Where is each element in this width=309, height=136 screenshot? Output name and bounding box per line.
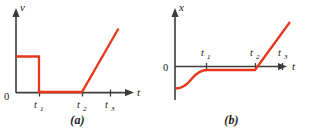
panel-b-y-axis <box>171 8 178 100</box>
panel-b-tick-label-t1-sub: 1 <box>207 53 211 61</box>
panel-a-tick-label-t3: t 3 <box>105 99 115 113</box>
panel-a-tick-label-t3-base: t <box>105 99 109 110</box>
panel-a-velocity-graph: v t 0 t 1 t 2 t 3 (a) <box>0 0 155 136</box>
x-axis-arrowhead <box>125 89 134 96</box>
panel-a-caption: (a) <box>0 113 155 128</box>
panel-b-tick-label-t2-sub: 2 <box>256 53 260 61</box>
panel-b-tick-label-t1-base: t <box>201 47 205 58</box>
panel-b-tick-label-t3-sub: 3 <box>283 53 288 61</box>
panel-b-tick-label-t3-base: t <box>278 47 282 58</box>
panel-a-tick-label-t2: t 2 <box>77 99 87 113</box>
panel-a-x-axis-label: t <box>137 86 141 98</box>
panel-b-position-curve <box>176 22 290 89</box>
panel-b-tick-label-t2-base: t <box>250 47 254 58</box>
panel-a-velocity-curve <box>17 29 119 93</box>
panel-b-y-axis-label: x <box>178 1 184 13</box>
panel-b-origin-label: 0 <box>163 62 168 73</box>
panel-a-y-axis <box>12 8 19 93</box>
panel-b-x-axis-label: t <box>292 60 296 72</box>
panel-a-tick-label-t2-base: t <box>77 99 81 110</box>
panel-a-tick-label-t1: t 1 <box>34 99 44 113</box>
y-axis-arrowhead <box>171 8 178 17</box>
panel-b-tick-label-t1: t 1 <box>201 47 211 61</box>
panel-b-tick-label-t3: t 3 <box>278 47 288 61</box>
panel-b-tick-label-t2: t 2 <box>250 47 260 61</box>
panel-a-origin-label: 0 <box>4 91 9 102</box>
y-axis-arrowhead <box>12 8 19 17</box>
panel-a-tick-label-t2-sub: 2 <box>83 105 87 113</box>
panel-b-position-graph: x t 0 t 1 t 2 t 3 (b) <box>154 0 309 136</box>
panel-a-tick-label-t3-sub: 3 <box>110 105 115 113</box>
panel-a-tick-label-t1-base: t <box>34 99 38 110</box>
panel-b-caption: (b) <box>154 113 309 128</box>
panel-a-y-axis-label: v <box>20 1 25 13</box>
panel-a-tick-label-t1-sub: 1 <box>40 105 44 113</box>
physics-figure-velocity-position-graphs: v t 0 t 1 t 2 t 3 (a) <box>0 0 309 136</box>
